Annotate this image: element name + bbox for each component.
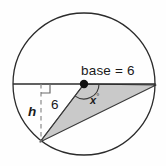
base-length-label: base = 6 [81, 64, 135, 78]
right-angle-marker-icon [41, 84, 50, 93]
degree-symbol: ° [96, 92, 99, 101]
center-point-dot [80, 80, 88, 88]
diagram-canvas: base = 6 6 h x° [0, 0, 166, 166]
side-length-label: 6 [51, 98, 59, 112]
geometry-figure [0, 0, 166, 166]
height-label: h [28, 105, 36, 119]
angle-label: x° [90, 93, 99, 106]
